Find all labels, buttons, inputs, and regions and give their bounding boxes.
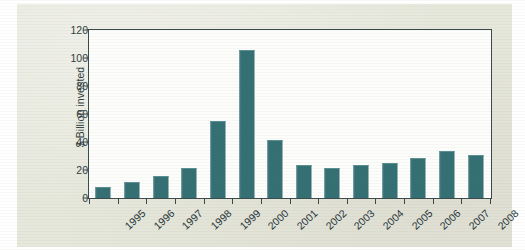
bar-slot <box>232 30 261 198</box>
x-axis-tick-mark <box>232 199 233 204</box>
y-axis-tick-label: 60 <box>42 108 88 120</box>
x-axis-tick-label: 2008 <box>495 207 520 232</box>
x-axis-tick-mark <box>461 199 462 204</box>
x-axis-tick-label: 2000 <box>266 207 291 232</box>
y-axis-tick-label: 40 <box>42 136 88 148</box>
bar-2002 <box>296 165 311 198</box>
x-axis-tick-mark <box>404 199 405 204</box>
y-axis-tick-label: 120 <box>42 24 88 36</box>
x-axis-tick-label: 2007 <box>466 207 491 232</box>
x-axis-tick-mark <box>118 199 119 204</box>
bar-2006 <box>411 158 426 198</box>
x-axis-tick-mark <box>347 199 348 204</box>
x-axis-tick-mark <box>318 199 319 204</box>
bar-2007 <box>440 151 455 198</box>
y-axis-tick-label: 80 <box>42 80 88 92</box>
bar-slot <box>318 30 347 198</box>
x-axis-tick-label: 1998 <box>208 207 233 232</box>
bar-slot <box>261 30 290 198</box>
bar-slot <box>461 30 490 198</box>
bar-slot <box>146 30 175 198</box>
y-axis-tick-label: 100 <box>42 52 88 64</box>
bar-series <box>89 30 490 198</box>
bar-slot <box>89 30 118 198</box>
bar-2004 <box>354 165 369 198</box>
x-axis-tick-mark <box>89 199 90 204</box>
bar-1997 <box>153 176 168 198</box>
x-axis-tick-label: 1995 <box>122 207 147 232</box>
x-axis: 1995199619971998199920002001200220032004… <box>89 199 490 247</box>
bar-slot <box>204 30 233 198</box>
x-axis-tick-mark <box>490 199 491 204</box>
y-axis: $ Billion invested 020406080100120 <box>36 29 88 199</box>
bar-2005 <box>382 163 397 198</box>
y-axis-tick-label: 0 <box>42 192 88 204</box>
bar-slot <box>175 30 204 198</box>
x-axis-tick-label: 2003 <box>352 207 377 232</box>
x-axis-tick-label: 2005 <box>409 207 434 232</box>
x-axis-tick-label: 1999 <box>237 207 262 232</box>
chart-screenshot: $ Billion invested 020406080100120 19951… <box>0 0 525 250</box>
bar-slot <box>290 30 319 198</box>
x-axis-tick-mark <box>290 199 291 204</box>
x-axis-tick-mark <box>433 199 434 204</box>
bar-2003 <box>325 168 340 198</box>
y-axis-tick-label: 20 <box>42 164 88 176</box>
bar-chart-figure: $ Billion invested 020406080100120 19951… <box>0 0 525 250</box>
x-axis-tick-label: 2004 <box>380 207 405 232</box>
bar-slot <box>118 30 147 198</box>
x-axis-tick-mark <box>175 199 176 204</box>
bar-2001 <box>268 140 283 198</box>
x-axis-tick-label: 2006 <box>438 207 463 232</box>
x-axis-tick-label: 2002 <box>323 207 348 232</box>
x-axis-tick-mark <box>261 199 262 204</box>
x-axis-tick-mark <box>375 199 376 204</box>
x-axis-tick-mark <box>204 199 205 204</box>
x-axis-tick-label: 1996 <box>151 207 176 232</box>
bar-1998 <box>182 168 197 198</box>
bar-slot <box>433 30 462 198</box>
bar-slot <box>347 30 376 198</box>
bar-1999 <box>210 121 225 198</box>
x-axis-tick-label: 1997 <box>180 207 205 232</box>
bar-1996 <box>124 182 139 198</box>
bar-slot <box>375 30 404 198</box>
bar-2000 <box>239 50 254 198</box>
bar-1995 <box>96 187 111 199</box>
x-axis-tick-label: 2001 <box>294 207 319 232</box>
x-axis-tick-mark <box>146 199 147 204</box>
bar-slot <box>404 30 433 198</box>
bar-2008 <box>468 155 483 198</box>
